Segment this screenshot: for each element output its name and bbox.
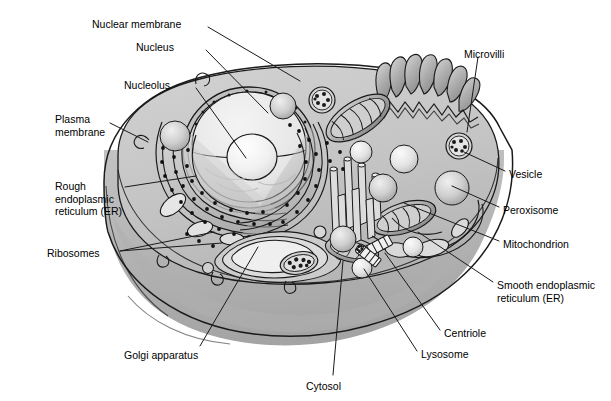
label-nuclear-membrane: Nuclear membrane: [92, 18, 181, 31]
label-rough-er: Rough endoplasmic reticulum (ER): [55, 180, 122, 218]
label-nucleolus: Nucleolus: [124, 79, 170, 92]
label-mitochondrion: Mitochondrion: [503, 238, 569, 251]
label-smooth-er: Smooth endoplasmic reticulum (ER): [497, 279, 595, 304]
label-golgi-apparatus: Golgi apparatus: [124, 349, 198, 362]
label-nucleus: Nucleus: [136, 41, 174, 54]
label-ribosomes: Ribosomes: [47, 247, 100, 260]
label-peroxisome: Peroxisome: [503, 204, 558, 217]
label-centriole: Centriole: [444, 327, 486, 340]
cell-diagram-canvas: Nuclear membraneNucleusNucleolusPlasma m…: [0, 0, 611, 401]
label-vesicle: Vesicle: [509, 168, 542, 181]
label-microvilli: Microvilli: [464, 48, 504, 61]
label-cytosol: Cytosol: [306, 380, 341, 393]
label-lysosome: Lysosome: [421, 348, 468, 361]
label-plasma-membrane: Plasma membrane: [55, 113, 105, 138]
